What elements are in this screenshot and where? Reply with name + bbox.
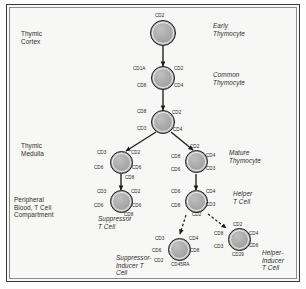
marker-helper-inducer-cd3: CD3 xyxy=(214,244,223,249)
marker-transitional-thymocyte-cd3: CD3 xyxy=(137,126,146,131)
marker-helper-inducer-cd6: CD6 xyxy=(249,243,258,248)
cell-early-thymocyte[interactable] xyxy=(150,20,176,46)
cell-type-label-early-thymocyte: Early Thymocyte xyxy=(213,22,245,37)
marker-helper-inducer-cd8: CD8 xyxy=(214,231,223,236)
marker-suppressor-t-cell-cd3: CD3 xyxy=(97,189,106,194)
marker-early-thymocyte-cd2: CD2 xyxy=(155,13,164,18)
marker-suppressor-precursor-cd3: CD3 xyxy=(97,150,106,155)
marker-suppressor-precursor-cd6-left: CD6 xyxy=(94,165,103,170)
cell-type-label-helper-inducer-t-cell: Helper- Inducer T Cell xyxy=(262,249,284,272)
marker-transitional-thymocyte-cd2: CD2 xyxy=(172,110,181,115)
marker-suppressor-t-cell-cd2: CD2 xyxy=(131,189,140,194)
cell-type-label-helper-t-cell: Helper T Cell xyxy=(233,190,252,205)
marker-helper-t-cell-cd6: CD6 xyxy=(171,189,180,194)
marker-suppressor-precursor-cd6-right: CD6 xyxy=(132,165,141,170)
stage-label-thymic-cortex: Thymic Cortex xyxy=(21,30,42,45)
marker-helper-inducer-cd2: CD2 xyxy=(233,222,242,227)
diagram-frame-inner-border xyxy=(9,7,297,279)
cell-type-label-suppressor-inducer-t-cell: Suppressor- Inducer T Cell xyxy=(116,254,152,277)
marker-suppressor-precursor-cd2: CD2 xyxy=(131,150,140,155)
cell-suppressor-precursor[interactable] xyxy=(110,151,133,174)
cell-mature-thymocyte[interactable] xyxy=(185,150,208,173)
diagram-page: Thymic Cortex Thymic Medulla Peripheral … xyxy=(0,0,306,289)
cell-suppressor-t-cell[interactable] xyxy=(110,190,133,213)
marker-common-thymocyte-cd1a: CD1A xyxy=(133,66,145,71)
marker-suppressor-t-cell-cd8: CD8 xyxy=(124,212,133,217)
stage-label-peripheral-blood: Peripheral Blood, T Cell Compartment xyxy=(14,196,54,219)
marker-helper-t-cell-cd2: CD2 xyxy=(192,212,201,217)
cell-helper-t-cell[interactable] xyxy=(185,190,208,213)
marker-mature-thymocyte-cd2: CD2 xyxy=(190,144,199,149)
marker-helper-t-cell-cd3: CD3 xyxy=(206,202,215,207)
marker-suppressor-inducer-cd3: CD3 xyxy=(155,236,164,241)
marker-helper-t-cell-cd4: CD4 xyxy=(206,189,215,194)
marker-common-thymocyte-cd2: CD2 xyxy=(174,66,183,71)
marker-transitional-thymocyte-cd4: CD4 xyxy=(173,127,182,132)
marker-common-thymocyte-cd8: CD8 xyxy=(137,83,146,88)
marker-helper-t-cell-cd8: CD8 xyxy=(171,203,180,208)
marker-suppressor-inducer-cd4: CD4 xyxy=(189,236,198,241)
marker-suppressor-inducer-cd6: CD6 xyxy=(152,248,161,253)
marker-mature-thymocyte-cd6: CD6 xyxy=(171,167,180,172)
marker-mature-thymocyte-cd8: CD8 xyxy=(171,154,180,159)
cell-helper-inducer-t-cell[interactable] xyxy=(228,228,251,251)
marker-suppressor-inducer-cd8: CD8 xyxy=(190,248,199,253)
diagram-frame xyxy=(6,4,300,282)
marker-suppressor-inducer-cd2: CD2 xyxy=(154,258,163,263)
stage-label-thymic-medulla: Thymic Medulla xyxy=(21,142,44,157)
marker-helper-inducer-cd4: CD4 xyxy=(249,231,258,236)
cell-type-label-mature-thymocyte: Mature Thymocyte xyxy=(229,149,261,164)
marker-helper-inducer-cd29: CD29 xyxy=(232,252,244,257)
cell-type-label-suppressor-t-cell: Suppressor T Cell xyxy=(98,215,131,230)
marker-suppressor-t-cell-cd6-left: CD6 xyxy=(94,203,103,208)
marker-suppressor-t-cell-cd6-right: CD6 xyxy=(132,203,141,208)
marker-suppressor-precursor-cd8: CD8 xyxy=(125,175,134,180)
marker-transitional-thymocyte-cd8: CD8 xyxy=(137,109,146,114)
cell-common-thymocyte[interactable] xyxy=(151,66,175,90)
marker-mature-thymocyte-cd4: CD4 xyxy=(206,153,215,158)
marker-common-thymocyte-cd4: CD4 xyxy=(174,83,183,88)
cell-suppressor-inducer-t-cell[interactable] xyxy=(168,238,191,261)
cell-type-label-common-thymocyte: Common Thymocyte xyxy=(213,71,245,86)
marker-suppressor-inducer-cd45ra: CD45RA xyxy=(171,262,189,267)
marker-mature-thymocyte-cd3: CD3 xyxy=(206,166,215,171)
